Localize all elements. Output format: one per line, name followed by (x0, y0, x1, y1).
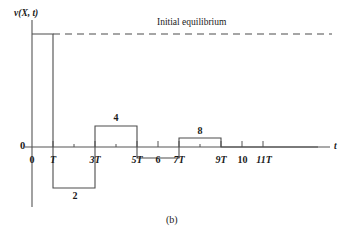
x-tick-label-0: 0 (26, 155, 38, 165)
x-tick-label-9T: 9T (212, 155, 230, 165)
x-tick-label-5T: 5T (128, 155, 146, 165)
y-axis-zero-label: 0 (20, 141, 25, 152)
x-tick-label-11T: 11T (254, 155, 274, 165)
x-tick-label-T: T (47, 155, 59, 165)
x-axis-label: t (334, 142, 337, 152)
t-axis-ticks (53, 141, 263, 147)
x-tick-label-6: 6 (152, 155, 164, 165)
y-axis-label: v(X, t) (14, 9, 38, 19)
step-label-8: 8 (193, 126, 207, 136)
initial-equilibrium-label: Initial equilibrium (157, 18, 226, 28)
step-label-2: 2 (68, 191, 82, 201)
step-label-4: 4 (109, 113, 123, 123)
figure-caption: (b) (166, 215, 178, 225)
waveform-plot (0, 0, 350, 240)
x-tick-label-7T: 7T (170, 155, 188, 165)
figure-container: v(X, t) Initial equilibrium 0 t 0 T 3T 5… (0, 0, 350, 240)
x-tick-label-3T: 3T (86, 155, 104, 165)
x-tick-label-10: 10 (236, 155, 249, 165)
